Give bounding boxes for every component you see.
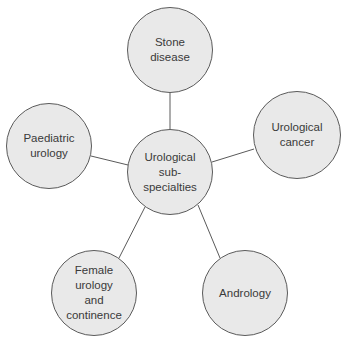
node-paediatric-urology: Paediatric urology: [6, 103, 92, 189]
node-stone-disease: Stone disease: [127, 7, 213, 93]
center-label: Urological sub- specialties: [143, 150, 197, 195]
edge-female: [119, 207, 145, 258]
edge-andrology: [198, 205, 220, 258]
node-andrology: Andrology: [202, 250, 288, 336]
node-female-urology: Female urology and continence: [51, 250, 137, 336]
node-label: Andrology: [219, 286, 271, 301]
edge-paediatric: [91, 156, 128, 165]
node-label: Paediatric urology: [23, 131, 74, 161]
node-label: Female urology and continence: [66, 263, 122, 323]
node-urological-cancer: Urological cancer: [253, 91, 341, 179]
node-label: Stone disease: [150, 35, 190, 65]
center-node: Urological sub- specialties: [127, 129, 213, 215]
edge-cancer: [212, 149, 254, 162]
node-label: Urological cancer: [271, 120, 322, 150]
